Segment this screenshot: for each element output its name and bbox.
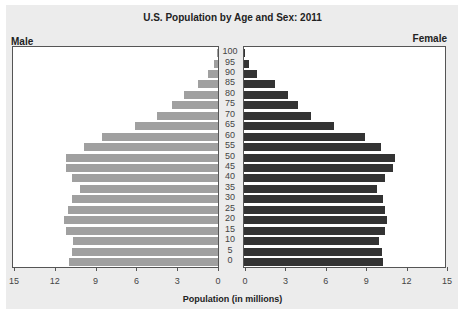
x-tick-label: 0 <box>235 276 255 286</box>
male-bar-age-30 <box>72 195 218 203</box>
x-tick-label: 6 <box>126 276 146 286</box>
x-tick <box>326 267 327 271</box>
male-bar-age-40 <box>72 174 218 182</box>
female-plot-area <box>243 46 446 268</box>
x-tick-label: 3 <box>275 276 295 286</box>
age-tick-label: 35 <box>218 182 242 192</box>
age-tick-label: 20 <box>218 213 242 223</box>
age-tick-label: 100 <box>218 46 242 56</box>
x-tick <box>218 267 219 271</box>
age-tick-label: 60 <box>218 130 242 140</box>
x-tick <box>136 267 137 271</box>
x-tick <box>55 267 56 271</box>
age-tick-label: 15 <box>218 224 242 234</box>
male-bar-age-20 <box>64 216 218 224</box>
age-tick-label: 50 <box>218 151 242 161</box>
age-tick-label: 45 <box>218 161 242 171</box>
x-tick-label: 15 <box>4 276 24 286</box>
male-bar-age-85 <box>198 80 219 88</box>
female-bar-age-75 <box>244 101 298 109</box>
age-tick-label: 25 <box>218 203 242 213</box>
male-bar-age-55 <box>84 143 218 151</box>
female-bar-age-90 <box>244 70 257 78</box>
age-tick-label: 0 <box>218 255 242 265</box>
age-tick-label: 30 <box>218 192 242 202</box>
age-tick-label: 85 <box>218 77 242 87</box>
female-label: Female <box>413 33 447 44</box>
male-bar-age-70 <box>157 112 219 120</box>
male-bar-age-80 <box>184 91 218 99</box>
female-bar-age-20 <box>244 216 387 224</box>
female-bar-age-100 <box>244 49 245 57</box>
male-bar-age-5 <box>72 248 218 256</box>
x-tick-label: 3 <box>167 276 187 286</box>
x-tick-label: 15 <box>437 276 457 286</box>
female-bar-age-30 <box>244 195 383 203</box>
female-bar-age-70 <box>244 112 311 120</box>
age-tick-label: 75 <box>218 98 242 108</box>
age-tick-label: 55 <box>218 140 242 150</box>
female-bar-age-50 <box>244 154 395 162</box>
chart-title: U.S. Population by Age and Sex: 2011 <box>0 12 465 23</box>
x-tick <box>14 267 15 271</box>
age-tick-label: 80 <box>218 88 242 98</box>
age-tick-label: 65 <box>218 119 242 129</box>
male-bar-age-45 <box>66 164 218 172</box>
female-bar-age-80 <box>244 91 288 99</box>
x-tick-label: 9 <box>356 276 376 286</box>
male-plot-area <box>12 46 219 268</box>
female-bar-age-5 <box>244 248 382 256</box>
female-bar-age-45 <box>244 164 393 172</box>
male-bar-age-65 <box>135 122 218 130</box>
female-bar-age-40 <box>244 174 385 182</box>
x-tick-label: 12 <box>397 276 417 286</box>
x-tick <box>285 267 286 271</box>
male-bar-age-0 <box>69 258 218 266</box>
male-bar-age-90 <box>208 70 218 78</box>
x-tick <box>366 267 367 271</box>
age-tick-label: 5 <box>218 245 242 255</box>
female-bar-age-55 <box>244 143 381 151</box>
x-tick <box>245 267 246 271</box>
x-tick <box>407 267 408 271</box>
female-bar-age-65 <box>244 122 334 130</box>
female-bar-age-15 <box>244 227 385 235</box>
male-bar-age-15 <box>66 227 218 235</box>
x-tick <box>177 267 178 271</box>
age-tick-label: 90 <box>218 67 242 77</box>
age-tick-label: 40 <box>218 171 242 181</box>
male-bar-age-75 <box>172 101 218 109</box>
female-bar-age-10 <box>244 237 379 245</box>
male-bar-age-35 <box>80 185 218 193</box>
female-bar-age-35 <box>244 185 377 193</box>
x-tick <box>447 267 448 271</box>
male-bar-age-60 <box>102 133 218 141</box>
x-tick-label: 0 <box>208 276 228 286</box>
age-tick-label: 10 <box>218 234 242 244</box>
x-tick-label: 9 <box>86 276 106 286</box>
female-bar-age-85 <box>244 80 275 88</box>
age-tick-label: 95 <box>218 57 242 67</box>
x-tick-label: 12 <box>45 276 65 286</box>
female-bar-age-25 <box>244 206 385 214</box>
male-bar-age-25 <box>68 206 218 214</box>
female-bar-age-0 <box>244 258 383 266</box>
male-bar-age-10 <box>73 237 218 245</box>
x-tick-label: 6 <box>316 276 336 286</box>
age-tick-label: 70 <box>218 109 242 119</box>
female-bar-age-95 <box>244 60 249 68</box>
male-bar-age-50 <box>66 154 218 162</box>
x-tick <box>96 267 97 271</box>
x-axis-label: Population (in millions) <box>0 294 465 304</box>
female-bar-age-60 <box>244 133 365 141</box>
